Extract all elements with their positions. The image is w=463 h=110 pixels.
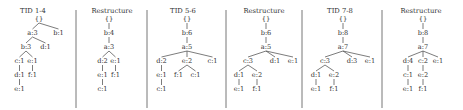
tree-node: f:1	[28, 71, 37, 79]
tree-node: f:1	[174, 71, 183, 79]
tree-node: d:1	[234, 71, 245, 79]
tree-node: d:2	[97, 57, 108, 65]
panel-title: Restructure	[400, 7, 441, 15]
panel-title: TID 5-6	[170, 7, 196, 15]
tree-node: a:3	[104, 43, 114, 51]
tree-node: d:1	[40, 43, 51, 51]
panel-title: TID 7-8	[327, 7, 353, 15]
tree-node: e:1	[110, 57, 120, 65]
tree-node: e:1	[433, 57, 443, 65]
tree-node: e:1	[156, 71, 166, 79]
tree-node: d:3	[347, 57, 358, 65]
fp-tree-restructure-diagram: TID 1-4{}a:3b:3c:1d:1e:1e:1f:1d:1b:1Rest…	[0, 0, 463, 110]
tree-node: e:1	[14, 85, 24, 93]
tree-node: f:1	[419, 85, 428, 93]
tree-node: f:1	[253, 85, 262, 93]
tree-root: {}	[419, 15, 427, 23]
tree-node: e:2	[252, 71, 262, 79]
tree-root: {}	[183, 15, 191, 23]
tree-node: e:2	[329, 71, 339, 79]
tree-node: c:1	[156, 85, 166, 93]
tree-node: b:1	[53, 29, 64, 37]
tree-node: e:1	[288, 57, 298, 65]
panel-separators	[76, 10, 382, 108]
tree-node: a:3	[27, 29, 37, 37]
tree-node: e:1	[97, 71, 107, 79]
tree-node: c:1	[403, 71, 413, 79]
tree-node: b:3	[21, 43, 32, 51]
tree-node: c:1	[14, 57, 24, 65]
tree-node: e:1	[403, 85, 413, 93]
panel-title: Restructure	[91, 7, 132, 15]
tree-node: c:3	[320, 57, 330, 65]
tree-node: b:6	[182, 29, 193, 37]
tree-panel: Restructure{}b:6a:5c:3d:1e:1e:2f:1d:1e:1	[234, 7, 298, 93]
tree-node: e:1	[365, 57, 375, 65]
tree-node: d:1	[270, 57, 281, 65]
tree-node: d:1	[14, 71, 25, 79]
tree-node: f:1	[330, 85, 339, 93]
tree-root: {}	[105, 15, 113, 23]
tree-node: e:2	[182, 57, 192, 65]
tree-root: {}	[262, 15, 270, 23]
tree-node: b:6	[261, 29, 272, 37]
tree-panel: Restructure{}b:8a:7d:4c:1e:1c:2e:2f:1e:1	[400, 7, 443, 93]
tree-node: b:8	[418, 29, 429, 37]
tree-node: c:1	[207, 57, 217, 65]
tree-panel: Restructure{}b:4a:3d:2e:1c:1e:1f:1	[91, 7, 132, 93]
tree-panel: TID 7-8{}b:8a:7c:3d:1e:1e:2f:1d:3e:1	[311, 7, 375, 93]
tree-node: d:2	[156, 57, 167, 65]
tree-panel: TID 1-4{}a:3b:3c:1d:1e:1e:1f:1d:1b:1	[14, 7, 64, 93]
panel-title: TID 1-4	[20, 7, 46, 15]
tree-node: b:4	[104, 29, 115, 37]
panel-title: Restructure	[243, 7, 284, 15]
tree-node: a:5	[261, 43, 271, 51]
tree-node: a:7	[418, 43, 428, 51]
tree-node: a:7	[338, 43, 348, 51]
tree-node: f:1	[111, 71, 120, 79]
tree-node: e:1	[311, 85, 321, 93]
tree-node: e:1	[234, 85, 244, 93]
tree-node: c:1	[190, 71, 200, 79]
tree-panel: TID 5-6{}b:6a:5d:2e:1c:1e:2f:1c:1c:1	[156, 7, 217, 93]
tree-root: {}	[35, 15, 43, 23]
tree-panels: TID 1-4{}a:3b:3c:1d:1e:1e:1f:1d:1b:1Rest…	[14, 7, 443, 93]
tree-node: e:2	[418, 71, 428, 79]
tree-node: c:1	[97, 85, 107, 93]
tree-node: a:5	[182, 43, 192, 51]
tree-node: e:1	[27, 57, 37, 65]
tree-node: c:2	[418, 57, 428, 65]
tree-node: d:1	[311, 71, 322, 79]
tree-node: b:8	[338, 29, 349, 37]
tree-node: c:3	[243, 57, 253, 65]
tree-root: {}	[339, 15, 347, 23]
tree-node: d:4	[403, 57, 414, 65]
